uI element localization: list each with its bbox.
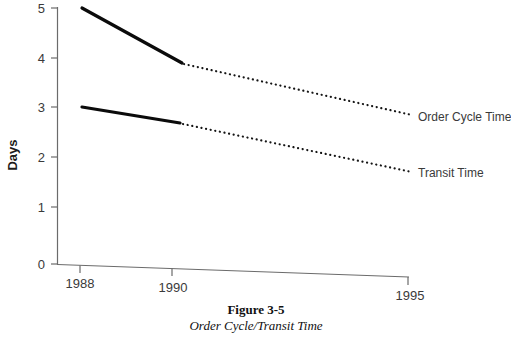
figure-container: 5 4 3 2 1 0 Days 1988 1990 1995 Order Cy… <box>0 0 511 338</box>
x-tick-label-1990: 1990 <box>159 280 188 295</box>
y-axis-title: Days <box>5 139 20 170</box>
y-tick-label-2: 2 <box>38 150 45 165</box>
series-label-order-cycle-time: Order Cycle Time <box>418 110 511 124</box>
y-tick-label-4: 4 <box>38 51 45 66</box>
series-label-transit-time: Transit Time <box>418 166 484 180</box>
x-tick-label-1988: 1988 <box>66 276 95 291</box>
figure-caption-subtitle: Order Cycle/Transit Time <box>189 318 322 333</box>
y-tick-label-3: 3 <box>38 100 45 115</box>
y-tick-label-1: 1 <box>38 200 45 215</box>
order-cycle-transit-time-chart: 5 4 3 2 1 0 Days 1988 1990 1995 Order Cy… <box>0 0 511 338</box>
figure-caption-title: Figure 3-5 <box>227 302 285 317</box>
y-tick-label-5: 5 <box>38 1 45 16</box>
x-tick-label-1995: 1995 <box>396 288 425 303</box>
y-tick-label-0: 0 <box>38 257 45 272</box>
